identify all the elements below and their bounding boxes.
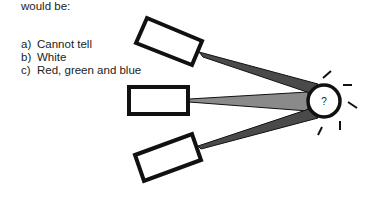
middle-projector <box>129 87 188 114</box>
middle-beam <box>189 92 308 111</box>
top-projector <box>136 18 202 65</box>
projector-diagram: ? <box>0 0 376 197</box>
bottom-projector <box>135 134 201 181</box>
top-beam <box>199 52 318 94</box>
bottom-beam <box>198 108 318 149</box>
spot-label: ? <box>321 96 327 107</box>
